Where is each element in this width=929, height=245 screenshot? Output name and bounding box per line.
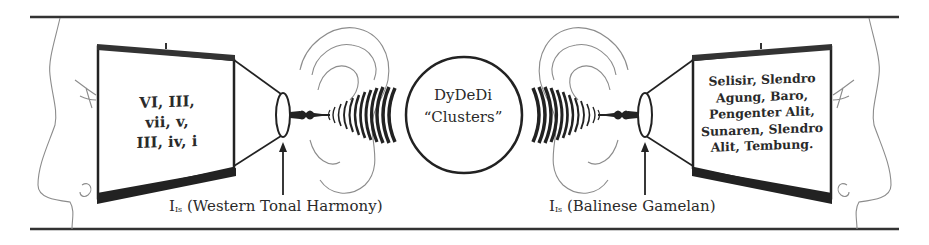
left-sound-waves-icon [329, 87, 396, 143]
left-projector-lens-icon [276, 93, 330, 137]
right-up-arrow-icon [641, 142, 649, 195]
diagram-canvas: VI, III, vii, v, III, iv, i Selisir, Sle… [0, 0, 929, 245]
right-screen-mode-list: Selisir, Slendro Agung, Baro, Pengenter … [692, 70, 832, 157]
right-caption-text: (Balinese Gamelan) [562, 197, 715, 215]
left-caption-text: (Western Tonal Harmony) [182, 197, 382, 215]
right-caption: IIs (Balinese Gamelan) [549, 197, 716, 215]
center-cluster-label: DyDeDi “Clusters” [388, 84, 538, 128]
right-projector-lens-icon [598, 93, 652, 137]
left-caption: IIs (Western Tonal Harmony) [169, 197, 383, 215]
left-up-arrow-icon [279, 142, 287, 195]
right-face-profile-icon [833, 18, 891, 229]
left-screen-chord-list: VI, III, vii, v, III, iv, i [108, 90, 226, 154]
right-sound-waves-icon [533, 87, 600, 143]
left-face-profile-icon [38, 18, 96, 229]
